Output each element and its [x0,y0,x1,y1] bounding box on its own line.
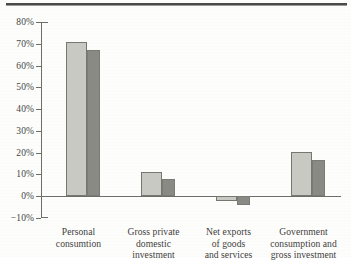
x-axis-category-label-line: Government [260,226,347,238]
y-axis-tick-label: 50% [16,82,34,92]
y-axis-tick-label: 40% [16,104,34,114]
y-axis-line [41,22,42,218]
x-axis-category-label: Net exportsof goodsand services [185,226,272,261]
x-axis-category-label-line: Personal [35,226,122,238]
bar [216,196,237,200]
x-axis-category-label-line: of goods [185,238,272,250]
bar [162,179,175,196]
y-axis-tick-label: 70% [16,39,34,49]
y-axis-tick [36,131,41,132]
x-axis-category-label-line: investment [110,249,197,261]
bar [312,160,325,196]
x-axis-category-label-line: and services [185,249,272,261]
x-axis-category-label-line: Net exports [185,226,272,238]
y-axis-tick-label: 80% [16,17,34,27]
bar [66,42,87,197]
x-axis-category-label: Governmentconsumption andgross investmen… [260,226,347,261]
y-axis-tick-label: 0% [21,191,34,201]
y-axis-tick [36,109,41,110]
y-axis-bottom-cap [41,217,48,218]
y-axis-tick [36,218,41,219]
x-axis-category-label-line: consumption and [260,238,347,250]
plot-area: 80%70%60%50%40%30%20%10%0%−10% Personalc… [41,22,341,218]
y-axis-tick [36,66,41,67]
zero-baseline [41,196,341,197]
x-axis-category-label-line: domestic [110,238,197,250]
y-axis-tick [36,87,41,88]
y-axis-top-cap [41,22,48,23]
y-axis-tick-label: 20% [16,148,34,158]
bar [237,196,250,205]
bar [141,172,162,196]
y-axis-tick-label: −10% [11,213,34,223]
x-axis-category-label-line: consumtion [35,238,122,250]
x-axis-category-label-line: gross investment [260,249,347,261]
y-axis-tick-label: 60% [16,61,34,71]
bar [291,152,312,197]
x-axis-category-label: Gross privatedomesticinvestment [110,226,197,261]
y-axis-tick [36,174,41,175]
y-axis-tick-label: 30% [16,126,34,136]
x-axis-category-label-line: Gross private [110,226,197,238]
bar [87,50,100,196]
x-axis-category-label: Personalconsumtion [35,226,122,249]
y-axis-tick-label: 10% [16,169,34,179]
y-axis-tick [36,44,41,45]
y-axis-tick [36,153,41,154]
y-axis-tick [36,22,41,23]
page-top-rule-shadow [6,5,347,6]
